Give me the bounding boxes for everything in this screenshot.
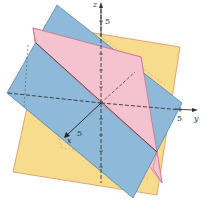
- y-tick-label: 5: [177, 114, 182, 123]
- x-tick-label: 5: [77, 129, 82, 138]
- y-axis-label: y: [193, 114, 199, 123]
- x-axis-label: x: [67, 136, 72, 145]
- z-axis-label: z: [92, 0, 98, 9]
- z-axis-arrowhead: [99, 2, 103, 8]
- y-axis-arrowhead: [192, 108, 198, 112]
- z-tick-label: 5: [105, 17, 110, 26]
- three-planes-diagram: z 5 5 y 5 x: [0, 0, 211, 207]
